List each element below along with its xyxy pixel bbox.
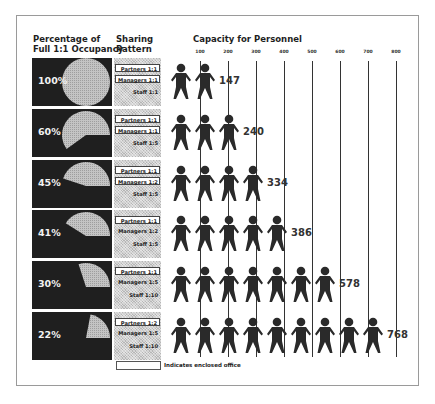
person-icon (266, 266, 288, 308)
person-icon (242, 215, 264, 257)
sharing-pattern-panel: Partners 1:1Managers 1:5Staff 1:10 (114, 261, 161, 309)
person-icon (242, 317, 264, 359)
occupancy-panel: 60% (32, 109, 112, 157)
person-icon (218, 114, 240, 156)
sharing-pattern-panel: Partners 1:1Managers 1:1Staff 1:5 (114, 109, 161, 157)
occupancy-header: Percentage of Full 1:1 Occupancy (33, 34, 123, 54)
person-icon (170, 165, 192, 207)
capacity-value: 386 (291, 227, 312, 238)
sharing-pattern-panel: Partners 1:1Managers 1:2Staff 1:5 (114, 210, 161, 258)
occupancy-percent: 100% (38, 75, 67, 86)
legend-label: Indicates enclosed office (164, 362, 241, 368)
person-icon (170, 317, 192, 359)
capacity-value: 147 (219, 75, 240, 86)
person-icon (314, 317, 336, 359)
person-icon (194, 266, 216, 308)
managers-ratio: Managers 1:5 (116, 278, 160, 286)
person-icon (338, 317, 360, 359)
person-icon (290, 317, 312, 359)
occupancy-percent: 30% (38, 278, 61, 289)
axis-gridline (228, 61, 229, 357)
occupancy-panel: 30% (32, 261, 112, 309)
person-icon (242, 266, 264, 308)
sharing-pattern-panel: Partners 1:1Managers 1:2Staff 1:5 (114, 160, 161, 208)
partners-ratio: Partners 1:1 (115, 166, 160, 174)
staff-ratio: Staff 1:1 (131, 88, 160, 96)
person-icon (266, 215, 288, 257)
person-icon (314, 266, 336, 308)
sharing-header-line1: Sharing (116, 34, 153, 44)
staff-ratio: Staff 1:10 (127, 291, 160, 299)
managers-ratio: Managers 1:1 (115, 75, 160, 83)
person-icon (218, 266, 240, 308)
axis-gridline (256, 61, 257, 357)
person-icon (242, 165, 264, 207)
partners-ratio: Partners 1:1 (115, 216, 160, 224)
person-icon (170, 63, 192, 105)
axis-tick-label: 600 (335, 49, 344, 54)
staff-ratio: Staff 1:5 (131, 240, 160, 248)
occupancy-header-line1: Percentage of (33, 34, 123, 44)
axis-tick-label: 300 (251, 49, 260, 54)
axis-tick-label: 700 (363, 49, 372, 54)
sharing-pattern-panel: Partners 1:2Managers 1:5Staff 1:10 (114, 312, 161, 360)
staff-ratio: Staff 1:5 (131, 190, 160, 198)
occupancy-percent: 45% (38, 177, 61, 188)
partners-ratio: Partners 1:1 (115, 115, 160, 123)
managers-ratio: Managers 1:1 (115, 126, 160, 134)
person-icon (218, 317, 240, 359)
axis-tick-label: 400 (279, 49, 288, 54)
person-icon (194, 165, 216, 207)
enclosed-office-legend-swatch (116, 361, 161, 370)
sharing-header-line2: Pattern (116, 44, 153, 54)
person-icon (218, 165, 240, 207)
partners-ratio: Partners 1:1 (115, 64, 160, 72)
person-icon (194, 317, 216, 359)
person-icon (170, 114, 192, 156)
occupancy-percent: 22% (38, 329, 61, 340)
person-icon (362, 317, 384, 359)
managers-ratio: Managers 1:5 (116, 329, 160, 337)
partners-ratio: Partners 1:2 (115, 318, 160, 326)
occupancy-panel: 100% (32, 58, 112, 106)
axis-gridline (312, 61, 313, 357)
occupancy-panel: 41% (32, 210, 112, 258)
staff-ratio: Staff 1:10 (127, 342, 160, 350)
staff-ratio: Staff 1:5 (131, 139, 160, 147)
axis-tick-label: 200 (223, 49, 232, 54)
axis-gridline (368, 61, 369, 357)
capacity-value: 578 (339, 278, 360, 289)
axis-gridline (284, 61, 285, 357)
person-icon (170, 266, 192, 308)
capacity-value: 240 (243, 126, 264, 137)
axis-gridline (340, 61, 341, 357)
axis-gridline (200, 61, 201, 357)
managers-ratio: Managers 1:2 (116, 227, 160, 235)
managers-ratio: Managers 1:2 (115, 177, 160, 185)
occupancy-header-line2: Full 1:1 Occupancy (33, 44, 123, 54)
person-icon (290, 266, 312, 308)
person-icon (194, 63, 216, 105)
person-icon (266, 317, 288, 359)
sharing-header: Sharing Pattern (116, 34, 153, 54)
capacity-value: 334 (267, 177, 288, 188)
partners-ratio: Partners 1:1 (115, 267, 160, 275)
axis-tick-label: 800 (391, 49, 400, 54)
axis-tick-label: 100 (195, 49, 204, 54)
occupancy-panel: 22% (32, 312, 112, 360)
axis-tick-label: 500 (307, 49, 316, 54)
person-icon (218, 215, 240, 257)
occupancy-panel: 45% (32, 160, 112, 208)
person-icon (170, 215, 192, 257)
occupancy-percent: 60% (38, 126, 61, 137)
axis-gridline (396, 61, 397, 357)
occupancy-percent: 41% (38, 227, 61, 238)
capacity-header: Capacity for Personnel (193, 34, 302, 44)
person-icon (194, 114, 216, 156)
sharing-pattern-panel: Partners 1:1Managers 1:1Staff 1:1 (114, 58, 161, 106)
capacity-value: 768 (387, 329, 408, 340)
person-icon (194, 215, 216, 257)
